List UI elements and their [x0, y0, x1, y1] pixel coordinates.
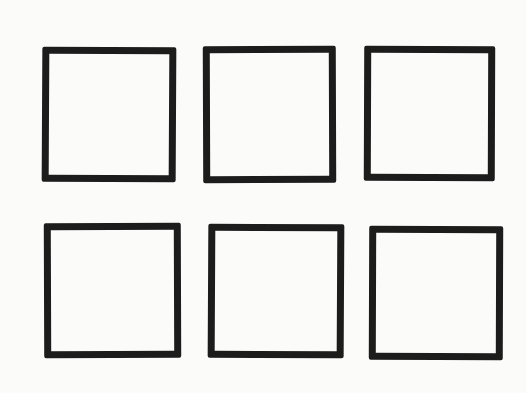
- square-r1-c3: [364, 46, 495, 181]
- diagram-canvas: [0, 0, 526, 393]
- square-r2-c1: [44, 223, 181, 358]
- square-r1-c2: [203, 46, 336, 183]
- square-r2-c3: [369, 226, 503, 360]
- square-r1-c1: [42, 47, 177, 183]
- square-r2-c2: [208, 224, 345, 359]
